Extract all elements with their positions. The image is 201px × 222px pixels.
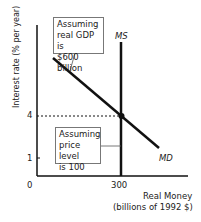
gdp-assumption-box: Assuming real GDP is $600 billion xyxy=(53,17,104,54)
price-box-line3: is 100 xyxy=(59,162,97,173)
x-axis-label-line1: Real Money xyxy=(143,191,192,201)
gdp-box-line1: Assuming xyxy=(57,19,100,30)
x-axis-label-line2: (billions of 1992 $) xyxy=(113,202,193,212)
origin-label: 0 xyxy=(27,180,32,190)
gdp-box-line2: real GDP is xyxy=(57,30,100,52)
y-tick-label-1: 1 xyxy=(27,153,32,163)
price-assumption-box: Assuming price level is 100 xyxy=(55,127,101,164)
x-tick-label-300: 300 xyxy=(111,180,127,190)
equilibrium-point xyxy=(119,113,125,119)
price-box-line1: Assuming xyxy=(59,129,97,140)
y-axis-label: Interest rate (% per year) xyxy=(12,6,21,108)
ms-label: MS xyxy=(115,31,128,41)
price-box-line2: price level xyxy=(59,140,97,162)
md-label: MD xyxy=(159,153,173,163)
y-tick-label-4: 4 xyxy=(27,110,32,120)
gdp-box-line3: $600 billion xyxy=(57,52,100,74)
